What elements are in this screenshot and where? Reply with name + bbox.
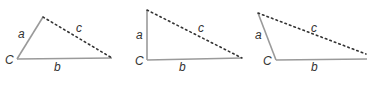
side-label-b: b xyxy=(311,60,318,74)
side-label-b: b xyxy=(179,60,186,74)
side-label-a: a xyxy=(136,28,143,42)
vertex-label-C: C xyxy=(263,54,272,68)
acute-triangle: C a b c xyxy=(5,17,112,74)
side-label-b: b xyxy=(54,60,61,74)
side-label-c: c xyxy=(76,21,82,35)
side-b xyxy=(276,59,367,60)
side-label-c: c xyxy=(311,21,317,35)
vertex-label-C: C xyxy=(135,54,144,68)
right-triangle: C a b c xyxy=(135,10,242,74)
side-label-c: c xyxy=(198,21,204,35)
side-label-a: a xyxy=(18,27,25,41)
side-label-a: a xyxy=(255,28,262,42)
triangle-diagram: C a b c C a b c C a b c xyxy=(0,0,368,88)
obtuse-triangle: C a b c xyxy=(255,13,367,74)
side-b xyxy=(17,58,112,59)
triangle-diagram-svg: C a b c C a b c C a b c xyxy=(0,0,368,88)
side-c-dashed xyxy=(147,10,242,58)
side-b xyxy=(147,58,242,60)
vertex-label-C: C xyxy=(5,53,14,67)
